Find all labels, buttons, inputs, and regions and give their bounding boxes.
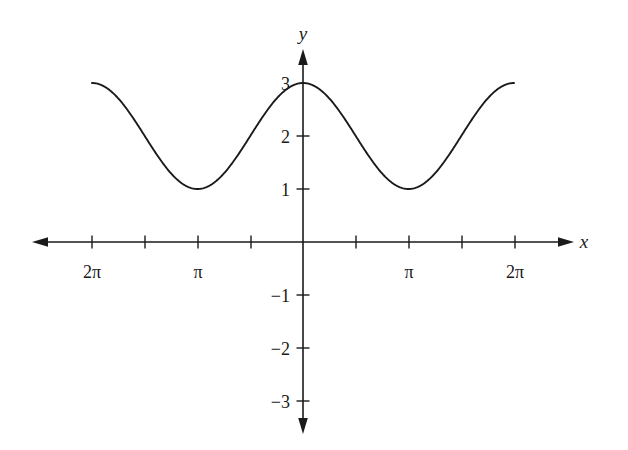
figure-background — [0, 0, 628, 450]
x-tick-label-neg-pi: π — [193, 262, 202, 282]
x-tick-label-pos-pi: π — [404, 262, 413, 282]
graph-figure: 2π π π 2π x 3 2 1 −1 −2 −3 y — [0, 0, 628, 450]
y-tick-label-1: 1 — [281, 180, 290, 200]
y-tick-label-neg-3: −3 — [271, 392, 290, 412]
y-tick-label-2: 2 — [281, 127, 290, 147]
x-axis-label: x — [579, 231, 589, 252]
x-tick-label-neg-2pi: 2π — [83, 262, 101, 282]
y-tick-label-neg-1: −1 — [271, 286, 290, 306]
y-tick-label-neg-2: −2 — [271, 339, 290, 359]
x-tick-label-pos-2pi: 2π — [506, 262, 524, 282]
y-axis-label: y — [297, 23, 308, 44]
